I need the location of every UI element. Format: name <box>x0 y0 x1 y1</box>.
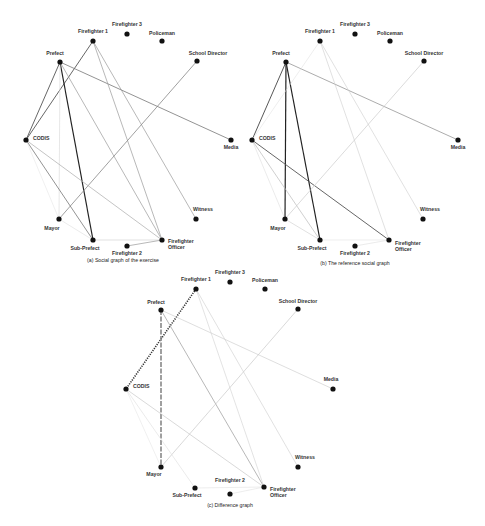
node-label: School Director <box>405 50 444 56</box>
node-label: Prefect <box>272 50 290 56</box>
node-label: FirefighterOfficer <box>270 486 296 498</box>
node-media: Media <box>324 376 339 392</box>
node-label: Sub-Prefect <box>172 492 201 498</box>
node-label: FirefighterOfficer <box>168 238 194 250</box>
node-label: Policeman <box>149 30 175 36</box>
node-label: FirefighterOfficer <box>395 240 421 252</box>
edge-sub-prefect-firefighter-officer <box>195 487 264 488</box>
node-label: Mayor <box>270 225 285 231</box>
edge-prefect-codis <box>252 62 286 140</box>
node-sub-prefect: Sub-Prefect <box>172 485 201 498</box>
node-dot <box>249 137 254 142</box>
node-dot <box>261 484 266 489</box>
node-dot <box>317 237 322 242</box>
edge-firefighter-2-firefighter-officer <box>230 487 264 494</box>
node-label: Firefighter 3 <box>340 21 370 27</box>
node-firefighter-officer: FirefighterOfficer <box>261 484 295 498</box>
node-layer: Firefighter 1Firefighter 3PolicemanPrefe… <box>23 21 238 256</box>
node-dot <box>23 137 28 142</box>
node-sub-prefect: Sub-Prefect <box>297 237 326 251</box>
node-dot <box>56 216 61 221</box>
node-label: Firefighter 2 <box>112 250 142 256</box>
node-label: Sub-Prefect <box>70 245 99 251</box>
node-label: Firefighter 2 <box>215 477 245 483</box>
node-dot <box>228 137 233 142</box>
node-label: Firefighter 3 <box>112 21 142 27</box>
node-dot <box>193 216 198 221</box>
node-dot <box>124 31 129 36</box>
node-firefighter-3: Firefighter 3 <box>215 269 245 285</box>
node-school-director: School Director <box>405 50 444 64</box>
node-firefighter-officer: FirefighterOfficer <box>386 237 420 252</box>
edge-school-director-mayor <box>285 61 424 219</box>
edge-prefect-codis <box>26 62 60 140</box>
caption-c: (c) Difference graph <box>207 502 253 508</box>
node-label: Mayor <box>146 471 161 477</box>
panel-b: Firefighter 1Firefighter 3PolicemanPrefe… <box>249 21 465 266</box>
node-sub-prefect: Sub-Prefect <box>70 237 99 251</box>
edge-prefect-mayor <box>285 62 286 219</box>
node-firefighter-1: Firefighter 1 <box>305 28 335 44</box>
edge-codis-mayor <box>126 389 161 467</box>
node-dot <box>193 286 198 291</box>
edge-prefect-mayor <box>59 62 60 219</box>
node-dot <box>90 38 95 43</box>
edge-firefighter-2-firefighter-officer <box>355 240 389 246</box>
edge-school-director-mayor <box>161 309 298 467</box>
node-dot <box>352 243 357 248</box>
node-firefighter-3: Firefighter 3 <box>340 21 370 37</box>
node-label: Firefighter 2 <box>340 250 370 256</box>
node-label: CODIS <box>259 135 276 141</box>
edge-prefect-sub-prefect <box>60 62 93 240</box>
edge-prefect-media <box>286 62 458 140</box>
node-label: Firefighter 1 <box>305 28 335 34</box>
node-label: Witness <box>193 206 213 212</box>
edge-firefighter-1-witness <box>196 289 298 467</box>
edge-mayor-sub-prefect <box>59 219 93 240</box>
node-dot <box>386 237 391 242</box>
node-dot <box>282 216 287 221</box>
edge-mayor-sub-prefect <box>285 219 320 240</box>
node-firefighter-2: Firefighter 2 <box>340 243 370 256</box>
node-label: CODIS <box>133 383 150 389</box>
node-layer: Firefighter 1Firefighter 3PolicemanPrefe… <box>249 21 465 256</box>
node-dot <box>192 485 197 490</box>
node-dot <box>227 491 232 496</box>
node-firefighter-2: Firefighter 2 <box>112 243 142 256</box>
node-policeman: Policeman <box>377 30 403 44</box>
node-policeman: Policeman <box>149 30 175 44</box>
node-school-director: School Director <box>279 298 318 312</box>
node-label: Firefighter 3 <box>215 269 245 275</box>
edge-firefighter-1-witness <box>93 41 196 219</box>
node-prefect: Prefect <box>272 50 290 65</box>
node-label: Sub-Prefect <box>297 245 326 251</box>
node-dot <box>159 38 164 43</box>
node-dot <box>317 38 322 43</box>
node-label: Media <box>324 376 339 382</box>
node-dot <box>295 464 300 469</box>
node-label: Media <box>451 144 466 150</box>
node-witness: Witness <box>295 454 315 470</box>
edge-school-director-mayor <box>59 61 197 219</box>
node-codis: CODIS <box>123 383 150 392</box>
node-dot <box>295 306 300 311</box>
edge-layer <box>126 289 333 494</box>
node-dot <box>352 31 357 36</box>
panel-c: Firefighter 1Firefighter 3PolicemanPrefe… <box>123 269 338 508</box>
node-dot <box>330 386 335 391</box>
figure-canvas: Firefighter 1Firefighter 3PolicemanPrefe… <box>0 0 485 526</box>
node-mayor: Mayor <box>146 464 163 477</box>
panel-a: Firefighter 1Firefighter 3PolicemanPrefe… <box>23 21 238 263</box>
node-media: Media <box>451 137 466 150</box>
edge-firefighter-1-witness <box>320 41 423 219</box>
node-dot <box>387 38 392 43</box>
node-label: Firefighter 1 <box>78 28 108 34</box>
node-label: Firefighter 1 <box>181 276 211 282</box>
node-label: School Director <box>189 50 228 56</box>
node-dot <box>421 58 426 63</box>
node-policeman: Policeman <box>252 277 278 292</box>
node-media: Media <box>224 137 239 150</box>
node-dot <box>124 243 129 248</box>
node-prefect: Prefect <box>147 299 165 313</box>
node-mayor: Mayor <box>44 216 61 231</box>
